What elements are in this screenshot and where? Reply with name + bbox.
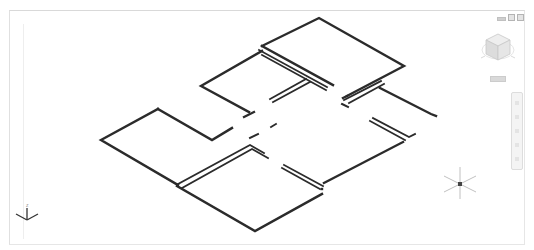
wall-right-room [380,88,436,116]
ucs-icon: Z [12,200,48,228]
restore-icon[interactable] [508,14,515,21]
wcs-menu[interactable]: WCS [490,76,506,82]
orbit-icon[interactable] [515,129,519,133]
pan-icon[interactable] [515,101,519,105]
wall-bottom-room [177,186,322,231]
floor-plan-walls-drawing[interactable] [0,0,534,250]
viewport-window-controls [497,14,524,21]
zoom-icon[interactable] [515,115,519,119]
steering-wheel-icon[interactable] [515,157,519,161]
wall-middle-room [201,51,262,112]
svg-text:Z: Z [26,203,29,208]
cursor-crosshair-icon [440,165,480,200]
showmotion-icon[interactable] [515,143,519,147]
minimize-icon[interactable] [497,17,506,21]
wall-right-lower [324,142,403,183]
close-icon[interactable] [517,14,524,21]
viewcube-icon[interactable] [480,30,516,66]
wall-left-room [101,109,178,185]
navigation-bar[interactable] [511,92,523,170]
